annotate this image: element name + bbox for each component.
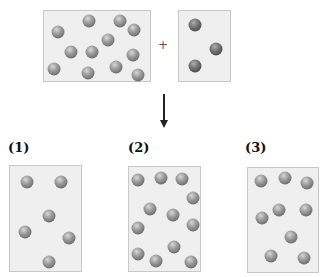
- particle-icon: [279, 172, 292, 185]
- particle-icon: [48, 63, 61, 76]
- particle-icon: [265, 250, 278, 263]
- particle-icon: [52, 26, 65, 39]
- reaction-arrow-head-icon: [160, 120, 168, 128]
- particle-icon: [155, 172, 168, 185]
- particle-icon: [150, 255, 163, 268]
- particle-icon: [167, 209, 180, 222]
- particle-icon: [55, 176, 68, 189]
- particle-icon: [128, 24, 141, 37]
- reaction-arrow-shaft: [163, 94, 165, 121]
- particle-icon: [110, 61, 123, 74]
- particle-icon: [21, 176, 34, 189]
- particle-icon: [127, 49, 140, 62]
- particle-icon: [114, 15, 127, 28]
- particle-icon: [300, 204, 313, 217]
- particle-icon: [187, 219, 200, 232]
- reactant-box-b: [178, 10, 231, 82]
- particle-icon: [176, 173, 189, 186]
- particle-icon: [298, 252, 311, 265]
- plus-sign: +: [158, 38, 168, 52]
- particle-icon: [285, 231, 298, 244]
- particle-icon: [273, 204, 286, 217]
- particle-icon: [168, 241, 181, 254]
- particle-icon: [43, 210, 56, 223]
- particle-icon: [189, 19, 202, 32]
- particle-icon: [132, 222, 145, 235]
- option-label-2: (2): [128, 140, 149, 155]
- particle-icon: [301, 177, 314, 190]
- particle-icon: [102, 34, 115, 47]
- particle-icon: [63, 232, 76, 245]
- particle-icon: [132, 69, 145, 82]
- option-label-1: (1): [8, 140, 29, 155]
- particle-icon: [65, 46, 78, 59]
- particle-icon: [86, 46, 99, 59]
- particle-icon: [132, 248, 145, 261]
- particle-icon: [19, 226, 32, 239]
- particle-icon: [187, 192, 200, 205]
- particle-icon: [185, 256, 198, 269]
- option-label-3: (3): [245, 140, 266, 155]
- particle-icon: [83, 15, 96, 28]
- particle-icon: [82, 67, 95, 80]
- particle-icon: [256, 212, 269, 225]
- particle-icon: [189, 60, 202, 73]
- particle-icon: [144, 203, 157, 216]
- particle-icon: [255, 175, 268, 188]
- particle-icon: [210, 43, 223, 56]
- particle-icon: [132, 174, 145, 187]
- particle-icon: [43, 256, 56, 269]
